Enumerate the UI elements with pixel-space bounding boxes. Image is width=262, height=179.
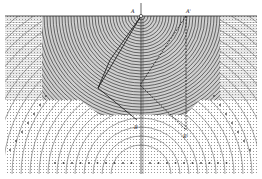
arc-mark <box>15 140 17 142</box>
arc-mark <box>219 104 221 106</box>
diagram: A A' B B' <box>0 0 262 179</box>
arc-mark <box>131 162 133 164</box>
label-top-right: A' <box>185 8 191 14</box>
arc-mark <box>21 131 23 133</box>
label-bottom-right: B' <box>182 133 188 139</box>
arc-mark <box>237 131 239 133</box>
arc-mark <box>33 113 35 115</box>
arc-mark <box>158 162 160 164</box>
arc-mark <box>183 162 185 164</box>
arc-mark <box>71 162 73 164</box>
arc-mark <box>217 162 219 164</box>
arc-mark <box>225 113 227 115</box>
arc-mark <box>27 122 29 124</box>
arc-mark <box>200 162 202 164</box>
apex-point <box>139 14 142 17</box>
arc-mark <box>231 122 233 124</box>
arc-mark <box>166 162 168 164</box>
arc-mark <box>39 104 41 106</box>
arc-mark <box>122 162 124 164</box>
arc-mark <box>9 149 11 151</box>
arc-mark <box>80 162 82 164</box>
arc-mark <box>192 162 194 164</box>
arc-mark <box>243 140 245 142</box>
arc-mark <box>175 162 177 164</box>
arc-mark <box>226 162 228 164</box>
arc-mark <box>149 162 151 164</box>
arc-mark <box>45 95 47 97</box>
arc-mark <box>105 162 107 164</box>
label-bottom-left: B <box>133 124 138 130</box>
arc-mark <box>88 162 90 164</box>
arc-mark <box>97 162 99 164</box>
arc-mark <box>114 162 116 164</box>
arc-mark <box>209 162 211 164</box>
arc-mark <box>213 95 215 97</box>
arc-mark <box>249 149 251 151</box>
label-top-left: A <box>130 8 135 14</box>
arc-mark <box>54 162 56 164</box>
arc-mark <box>63 162 65 164</box>
